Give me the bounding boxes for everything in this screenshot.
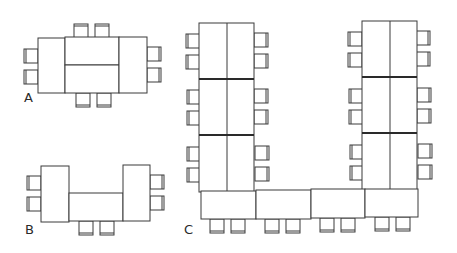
chair-icon: [396, 217, 410, 231]
chair-icon: [254, 54, 268, 68]
chair-icon: [150, 175, 164, 189]
table: [123, 165, 150, 221]
chair-icon: [418, 144, 432, 158]
diagram-canvas: [0, 0, 457, 253]
layout-label-b: B: [25, 222, 34, 237]
table: [201, 191, 256, 219]
chair-icon: [27, 176, 41, 190]
chair-icon: [417, 109, 431, 123]
chair-icon: [255, 146, 269, 160]
chair-icon: [348, 32, 362, 46]
table: [119, 37, 147, 93]
layout-label-a: A: [24, 90, 33, 105]
layout-c: [186, 21, 432, 233]
chair-icon: [97, 93, 111, 107]
chair-icon: [375, 217, 389, 231]
chair-icon: [186, 34, 200, 48]
table: [256, 190, 311, 219]
chair-icon: [286, 219, 300, 233]
chair-icon: [147, 47, 161, 61]
chair-icon: [416, 52, 430, 66]
chair-icon: [100, 221, 114, 235]
table: [365, 189, 418, 217]
chair-icon: [186, 55, 200, 69]
chair-icon: [341, 218, 355, 232]
chair-icon: [349, 110, 363, 124]
table: [311, 189, 365, 218]
chair-icon: [254, 89, 268, 103]
table: [65, 65, 119, 93]
table: [65, 37, 119, 65]
chair-icon: [74, 24, 88, 38]
layout-a: [24, 24, 161, 107]
table: [69, 193, 123, 221]
chair-icon: [265, 219, 279, 233]
layout-b: [27, 165, 164, 235]
chair-icon: [349, 89, 363, 103]
chair-icon: [95, 24, 109, 38]
chair-icon: [147, 68, 161, 82]
chair-icon: [418, 165, 432, 179]
chair-icon: [24, 49, 38, 63]
chair-icon: [24, 70, 38, 84]
chair-icon: [27, 197, 41, 211]
chair-icon: [150, 196, 164, 210]
chair-icon: [254, 110, 268, 124]
chair-icon: [417, 88, 431, 102]
chair-icon: [416, 31, 430, 45]
layout-label-c: C: [184, 222, 193, 237]
chair-icon: [210, 219, 224, 233]
table: [38, 38, 65, 93]
table: [41, 166, 69, 222]
chair-icon: [320, 218, 334, 232]
chair-icon: [79, 221, 93, 235]
chair-icon: [76, 93, 90, 107]
chair-icon: [231, 219, 245, 233]
chair-icon: [348, 53, 362, 67]
chair-icon: [255, 167, 269, 181]
chair-icon: [254, 33, 268, 47]
